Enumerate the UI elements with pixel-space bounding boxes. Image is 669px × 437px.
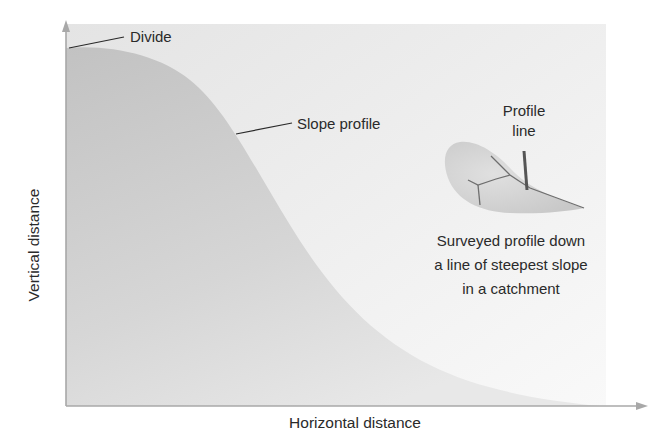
x-axis-label: Horizontal distance [289, 414, 421, 432]
caption-line-1: Surveyed profile down [408, 232, 614, 250]
x-axis-arrow-icon [636, 402, 648, 410]
profile-line-label-2: line [496, 122, 552, 140]
caption-line-3: in a catchment [408, 280, 614, 298]
diagram-canvas [0, 0, 669, 437]
profile-line-label-1: Profile [496, 102, 552, 120]
slope-profile-label: Slope profile [297, 115, 380, 133]
divide-label: Divide [130, 28, 172, 46]
caption-line-2: a line of steepest slope [408, 256, 614, 274]
y-axis-label: Vertical distance [25, 189, 43, 302]
slope-profile-diagram: Divide Slope profile Profile line Survey… [0, 0, 669, 437]
